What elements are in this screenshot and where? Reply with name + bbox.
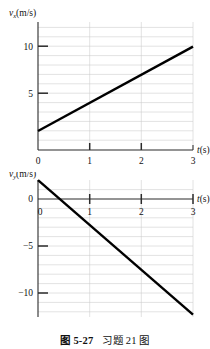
lower-y-axis-title: vy(m/s) [9,172,36,180]
lower-velocity-time-chart: 0 −5 −10 0 1 2 3 vy(m/s) t(s) [0,172,210,327]
lower-xtick-label-2: 2 [139,207,144,217]
upper-horizontal-gridlines [38,27,193,140]
lower-ytick-label-minus10: −10 [18,288,33,298]
upper-xtick-label-3: 3 [191,156,196,166]
lower-x-axis-title: t(s) [197,194,210,205]
upper-y-axis-title: vx(m/s) [9,8,36,19]
lower-xtick-label-0: 0 [38,207,43,217]
upper-ytick-label-10: 10 [24,42,34,52]
upper-velocity-time-chart: 10 5 0 1 2 3 vx(m/s) t(s) [0,0,210,170]
upper-ytick-label-5: 5 [28,89,33,99]
lower-y-axis-unit: (m/s) [16,172,36,180]
figure-container: 10 5 0 1 2 3 vx(m/s) t(s) [0,0,210,349]
upper-xtick-label-0: 0 [36,156,41,166]
upper-x-axis-title: t(s) [197,145,210,156]
upper-y-axis-unit: (m/s) [16,8,36,19]
lower-xtick-label-3: 3 [191,207,196,217]
upper-vertical-gridlines [90,22,193,145]
lower-xtick-label-1: 1 [87,207,92,217]
upper-data-line [38,47,193,131]
figure-caption: 图 5-27习题 21 图 [0,332,210,347]
figure-caption-text: 习题 21 图 [102,335,149,346]
upper-x-ticks [90,143,142,150]
figure-caption-label: 图 5-27 [60,335,93,346]
lower-data-line [38,180,193,314]
upper-xtick-label-2: 2 [139,156,144,166]
lower-y-ticks [38,246,48,293]
lower-ytick-label-0: 0 [28,194,33,204]
lower-ytick-label-minus5: −5 [23,241,33,251]
upper-y-ticks [38,46,48,93]
upper-xtick-label-1: 1 [87,156,92,166]
